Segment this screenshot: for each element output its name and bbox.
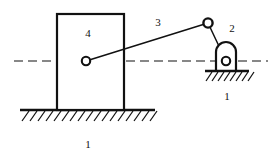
label-ground-left: 1 xyxy=(85,138,91,150)
top-joint xyxy=(203,18,212,27)
ground-right-hatching xyxy=(206,72,254,81)
label-ground-right: 1 xyxy=(224,90,230,102)
mechanism-svg: 4 3 2 xyxy=(0,0,275,160)
ground-left-hatching xyxy=(22,111,157,121)
slider-pivot-joint xyxy=(82,57,90,65)
mechanism-diagram: 4 3 2 xyxy=(0,0,275,160)
rocker-pivot-joint xyxy=(222,57,230,65)
ground-right: 1 xyxy=(205,71,254,102)
label-connecting-rod: 3 xyxy=(155,16,161,28)
label-rocker: 2 xyxy=(229,22,235,34)
ground-left xyxy=(20,110,157,121)
label-slider-block: 4 xyxy=(85,27,91,39)
